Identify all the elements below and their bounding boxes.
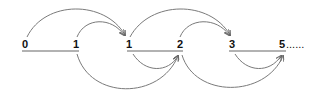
node-label-3: 3 [229, 38, 235, 50]
fibonacci-arc-diagram: 0 1 1 2 3 5 ...... [0, 0, 324, 100]
arc-1b-to-3 [130, 9, 230, 37]
diagram-canvas: 0 1 1 2 3 5 ...... [0, 0, 324, 100]
arc-2-to-5 [182, 55, 283, 87]
arc-1a-to-2 [77, 54, 178, 89]
arc-1b-to-2 [133, 54, 178, 69]
node-label-1a: 1 [73, 38, 79, 50]
node-label-1b: 1 [126, 38, 132, 50]
node-label-2: 2 [177, 38, 183, 50]
arc-0-to-1b [27, 9, 125, 37]
sequence-ellipsis: ...... [286, 38, 304, 50]
node-label-0: 0 [22, 38, 28, 50]
arc-3-to-5 [235, 54, 281, 69]
node-label-5: 5 [279, 38, 285, 50]
